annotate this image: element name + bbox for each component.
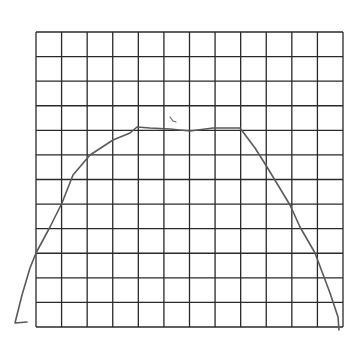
grid [36, 32, 343, 327]
stray-pen-mark [170, 117, 176, 122]
hand-drawn-figure [0, 0, 363, 341]
